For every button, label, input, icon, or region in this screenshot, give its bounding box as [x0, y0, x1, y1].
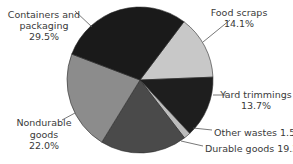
label-text: Other wastes 1.5%	[214, 127, 293, 138]
label-durable: Durable goods 19.2%	[205, 143, 293, 154]
label-food: Food scraps 14.1%	[211, 7, 268, 29]
label-text: Durable goods 19.2%	[205, 143, 293, 154]
label-value: 22.0%	[29, 140, 59, 151]
label-containers: Containers and packaging 29.5%	[8, 9, 80, 42]
label-text: Containers and	[8, 9, 80, 20]
label-other: Other wastes 1.5%	[214, 127, 293, 138]
leader-line-durable	[181, 141, 203, 146]
label-text: Food scraps	[211, 7, 268, 18]
label-text: Yard trimmings	[219, 89, 292, 100]
label-nondurable: Nondurable goods 22.0%	[16, 117, 71, 151]
pie-chart: Containers and packaging 29.5% Food scra…	[0, 0, 293, 164]
pie-slices	[67, 7, 213, 153]
label-text: Nondurable	[16, 117, 71, 128]
label-value: 14.1%	[224, 18, 254, 29]
label-text: packaging	[20, 20, 69, 31]
label-text: goods	[30, 129, 59, 140]
label-value: 29.5%	[29, 31, 59, 42]
leader-line-other	[193, 128, 212, 130]
label-value: 13.7%	[241, 100, 271, 111]
label-yard: Yard trimmings 13.7%	[219, 89, 292, 111]
